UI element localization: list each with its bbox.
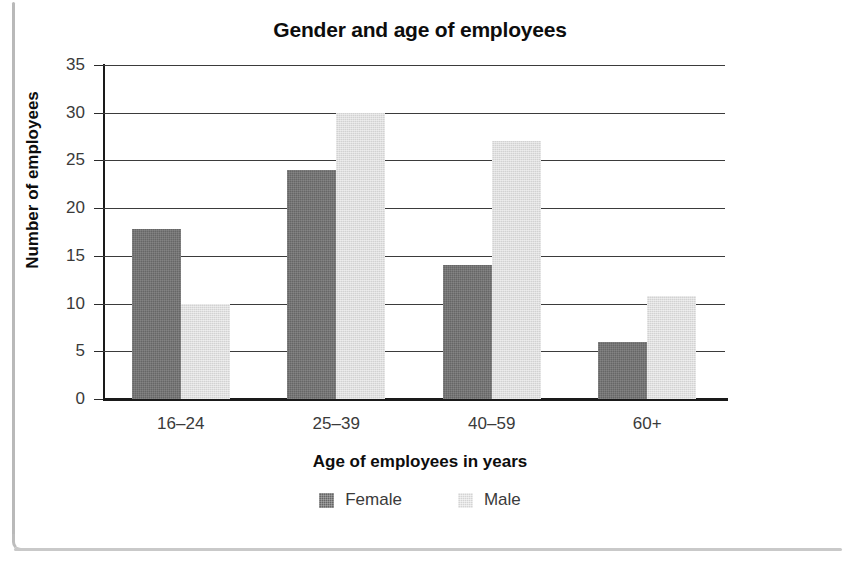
bar-female-2 [443,265,492,399]
y-axis-tick-label: 5 [25,342,85,359]
y-axis-tick [94,160,103,161]
plot-area: 35302520151050 [103,65,725,399]
y-axis-tick [94,65,103,66]
bar-male-0 [181,304,230,399]
legend-item-female: Female [319,490,402,510]
y-axis-tick [94,399,103,400]
chart-legend: FemaleMale [110,490,730,510]
gridline [103,113,725,114]
y-axis-tick-label: 0 [25,390,85,407]
y-axis-tick [94,208,103,209]
y-axis-tick-label: 10 [25,295,85,312]
bar-female-3 [598,342,647,399]
x-axis-tick-label: 60+ [567,414,727,434]
gridline [103,65,725,66]
y-axis-tick-label: 25 [25,151,85,168]
y-axis-tick [94,256,103,257]
legend-swatch-male [458,493,473,508]
x-axis-tick-label: 16–24 [101,414,261,434]
legend-label: Female [345,490,402,510]
bar-male-3 [647,296,696,399]
y-axis-tick [94,304,103,305]
bar-female-1 [287,170,336,399]
bar-female-0 [132,229,181,399]
bar-chart: Gender and age of employees Number of em… [0,0,868,530]
x-axis-tick-label: 25–39 [256,414,416,434]
y-axis-tick [94,113,103,114]
legend-item-male: Male [458,490,521,510]
chart-title: Gender and age of employees [110,18,730,42]
x-axis-title: Age of employees in years [110,452,730,472]
gridline [103,256,725,257]
page-frame-bottom-rule [14,548,842,551]
gridline [103,160,725,161]
y-axis-tick-label: 30 [25,104,85,121]
page-frame-corner [12,534,29,551]
legend-label: Male [484,490,521,510]
y-axis-tick-label: 15 [25,247,85,264]
bar-male-2 [492,141,541,399]
y-axis-tick-label: 35 [25,56,85,73]
y-axis-tick [94,351,103,352]
y-axis-tick-label: 20 [25,199,85,216]
bar-male-1 [336,113,385,399]
gridline [103,208,725,209]
figure-page: Gender and age of employees Number of em… [0,0,868,567]
y-axis-title: Number of employees [23,30,43,330]
legend-swatch-female [319,493,334,508]
x-axis-tick-label: 40–59 [412,414,572,434]
